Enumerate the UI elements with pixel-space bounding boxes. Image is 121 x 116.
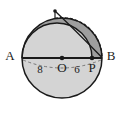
label-center-o: O [57,60,66,75]
label-segment-ao: 8 [37,63,43,75]
label-vertex-a: A [5,48,15,63]
point-apex-dot [53,9,57,13]
geometry-diagram-svg: A B O P 8 6 [0,0,121,116]
label-point-p: P [88,60,95,75]
geometry-figure: A B O P 8 6 [0,0,121,116]
label-vertex-b: B [107,48,116,63]
label-segment-op: 6 [74,63,80,75]
